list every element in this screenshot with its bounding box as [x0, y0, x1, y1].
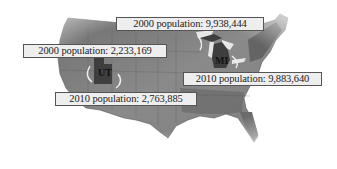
- state-label-ut: UT: [98, 67, 112, 78]
- state-label-mi: MI: [215, 55, 228, 66]
- ut-2010-population-label: 2010 population: 2,763,885: [55, 92, 197, 106]
- us-map: UT MI 2000 population: 9,938,444 2000 po…: [0, 0, 337, 169]
- mi-2000-population-label: 2000 population: 9,938,444: [116, 17, 264, 31]
- mi-2010-population-label: 2010 population: 9,883,640: [183, 72, 322, 86]
- ut-2000-population-label: 2000 population: 2,233,169: [23, 44, 167, 58]
